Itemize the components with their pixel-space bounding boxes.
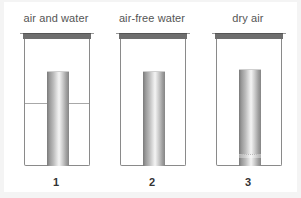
jar	[216, 33, 282, 166]
test-tube-icon	[143, 71, 165, 166]
experiment-figure: air and water 1 air-free water 2 dry air…	[4, 2, 297, 192]
setup-number: 3	[200, 176, 296, 188]
condition-label: air-free water	[104, 12, 200, 24]
jar	[120, 33, 186, 166]
jar	[24, 33, 90, 166]
test-tube-icon	[47, 71, 69, 166]
setup-number: 1	[8, 176, 104, 188]
lid	[215, 33, 283, 39]
lid	[23, 33, 91, 39]
setup-2: air-free water 2	[104, 2, 200, 192]
test-tube-icon	[239, 69, 261, 166]
setup-1: air and water 1	[8, 2, 104, 192]
condition-label: air and water	[8, 12, 104, 24]
setup-number: 2	[104, 176, 200, 188]
setup-3: dry air 3	[200, 2, 296, 192]
condition-label: dry air	[200, 12, 296, 24]
drying-agent-band	[239, 154, 261, 158]
lid	[119, 33, 187, 39]
